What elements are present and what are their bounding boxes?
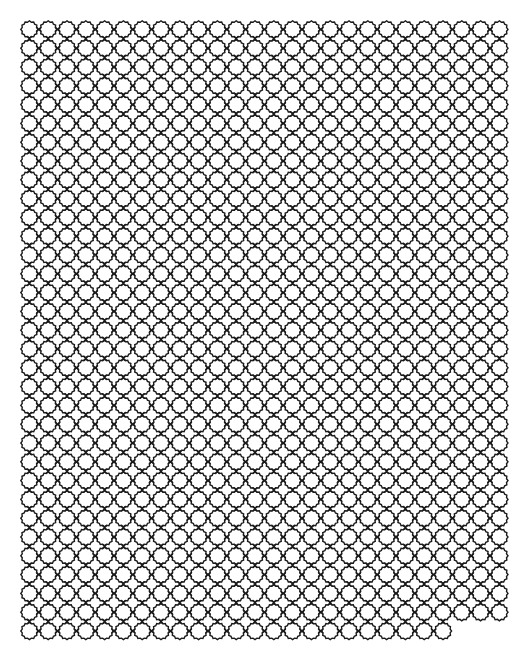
ring-cell xyxy=(21,40,38,57)
ring-cell xyxy=(190,622,207,639)
ring-cell xyxy=(40,96,57,113)
ring-cell xyxy=(115,152,132,169)
ring-cell xyxy=(322,566,339,583)
ring-cell xyxy=(21,416,38,433)
ring-cell xyxy=(434,510,451,527)
ring-cell xyxy=(96,134,113,151)
ring-cell xyxy=(246,209,263,226)
ring-cell xyxy=(434,265,451,282)
ring-cell xyxy=(416,134,433,151)
ring-cell xyxy=(77,303,94,320)
ring-cell xyxy=(265,585,282,602)
ring-cell xyxy=(434,491,451,508)
ring-cell xyxy=(115,585,132,602)
ring-cell xyxy=(434,152,451,169)
ring-cell xyxy=(171,453,188,470)
ring-cell xyxy=(416,510,433,527)
ring-cell xyxy=(284,472,301,489)
ring-cell xyxy=(397,472,414,489)
ring-cell xyxy=(209,472,226,489)
ring-cell xyxy=(303,152,320,169)
ring-cell xyxy=(228,209,245,226)
ring-cell xyxy=(134,547,151,564)
ring-cell xyxy=(96,416,113,433)
ring-cell xyxy=(340,96,357,113)
ring-cell xyxy=(40,190,57,207)
ring-cell xyxy=(246,303,263,320)
ring-cell xyxy=(77,265,94,282)
ring-cell xyxy=(190,284,207,301)
ring-cell xyxy=(58,284,75,301)
ring-cell xyxy=(491,209,508,226)
ring-cell xyxy=(472,528,489,545)
ring-cell xyxy=(284,434,301,451)
ring-cell xyxy=(77,585,94,602)
ring-cell xyxy=(77,416,94,433)
ring-cell xyxy=(397,340,414,357)
ring-cell xyxy=(171,209,188,226)
ring-cell xyxy=(58,359,75,376)
ring-cell xyxy=(322,152,339,169)
ring-cell xyxy=(228,622,245,639)
ring-cell xyxy=(472,547,489,564)
ring-cell xyxy=(265,228,282,245)
ring-cell xyxy=(434,190,451,207)
ring-cell xyxy=(322,190,339,207)
ring-cell xyxy=(134,303,151,320)
ring-cell xyxy=(472,359,489,376)
ring-cell xyxy=(190,246,207,263)
ring-cell xyxy=(171,152,188,169)
ring-cell xyxy=(340,115,357,132)
ring-cell xyxy=(491,359,508,376)
ring-cell xyxy=(303,134,320,151)
ring-cell xyxy=(21,547,38,564)
ring-cell xyxy=(209,604,226,621)
ring-cell xyxy=(40,416,57,433)
ring-cell xyxy=(416,190,433,207)
ring-cell xyxy=(190,491,207,508)
ring-cell xyxy=(228,510,245,527)
ring-cell xyxy=(397,434,414,451)
ring-cell xyxy=(209,96,226,113)
ring-cell xyxy=(21,528,38,545)
ring-cell xyxy=(265,604,282,621)
ring-cell xyxy=(340,472,357,489)
ring-cell xyxy=(40,434,57,451)
ring-cell xyxy=(228,604,245,621)
ring-cell xyxy=(340,434,357,451)
ring-cell xyxy=(21,152,38,169)
ring-cell xyxy=(303,434,320,451)
ring-cell xyxy=(472,453,489,470)
ring-cell xyxy=(58,397,75,414)
ring-cell xyxy=(416,246,433,263)
ring-cell xyxy=(359,152,376,169)
ring-cell xyxy=(340,566,357,583)
ring-cell xyxy=(115,190,132,207)
ring-cell xyxy=(265,491,282,508)
ring-cell xyxy=(359,40,376,57)
ring-cell xyxy=(134,152,151,169)
ring-cell xyxy=(434,303,451,320)
ring-cell xyxy=(77,284,94,301)
ring-cell xyxy=(265,171,282,188)
ring-cell xyxy=(77,359,94,376)
ring-cell xyxy=(303,322,320,339)
ring-cell xyxy=(434,284,451,301)
ring-cell xyxy=(171,246,188,263)
ring-cell xyxy=(284,359,301,376)
ring-cell xyxy=(21,228,38,245)
ring-cell xyxy=(322,322,339,339)
ring-cell xyxy=(284,96,301,113)
ring-cell xyxy=(434,566,451,583)
ring-cell xyxy=(434,585,451,602)
ring-cell xyxy=(77,622,94,639)
ring-cell xyxy=(397,359,414,376)
ring-cell xyxy=(359,115,376,132)
ring-cell xyxy=(209,378,226,395)
ring-cell xyxy=(322,21,339,38)
ring-cell xyxy=(322,134,339,151)
ring-cell xyxy=(453,228,470,245)
ring-cell xyxy=(152,528,169,545)
ring-cell xyxy=(209,340,226,357)
ring-cell xyxy=(340,284,357,301)
